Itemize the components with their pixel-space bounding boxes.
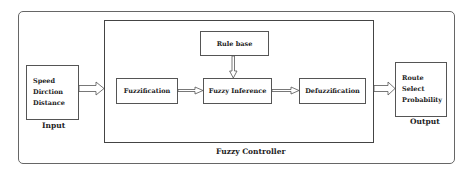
arrow-controller-to-output-icon xyxy=(374,82,395,95)
arrow-rulebase-to-inference-icon xyxy=(230,56,237,78)
arrow-inference-to-defuzzification-icon xyxy=(272,87,299,94)
arrow-fuzzification-to-inference-icon xyxy=(178,87,203,94)
flow-arrows xyxy=(0,0,470,173)
arrow-input-to-controller-icon xyxy=(79,82,104,95)
